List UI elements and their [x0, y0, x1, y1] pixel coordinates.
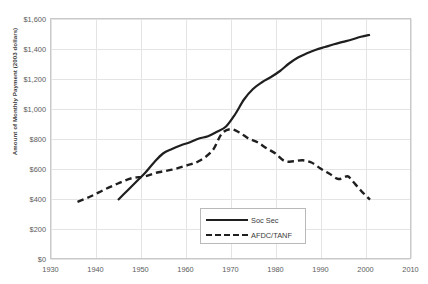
- legend-label: AFDC/TANF: [251, 231, 292, 240]
- x-axis-tick-label: 1940: [76, 265, 116, 274]
- series-line-afdc-tanf: [78, 129, 371, 202]
- data-series: [78, 35, 371, 202]
- x-axis-tick-label: 2000: [346, 265, 386, 274]
- x-axis-tick-labels: 193019401950196019701980199020002010: [0, 265, 428, 281]
- x-axis-tick-label: 1930: [31, 265, 71, 274]
- legend-item-afdc-tanf: AFDC/TANF: [201, 228, 307, 242]
- legend-line-dashed-icon: [206, 230, 248, 240]
- legend: Soc Sec AFDC/TANF: [200, 208, 306, 244]
- x-axis-tick-label: 2010: [391, 265, 428, 274]
- line-chart: Amount of Monthly Payment (2003 dollars)…: [0, 0, 428, 284]
- legend-item-soc-sec: Soc Sec: [201, 213, 307, 227]
- x-axis-tick-label: 1950: [121, 265, 161, 274]
- x-axis-tick-label: 1990: [301, 265, 341, 274]
- legend-label: Soc Sec: [251, 216, 279, 225]
- legend-line-solid-icon: [206, 215, 248, 225]
- x-axis-tick-label: 1970: [211, 265, 251, 274]
- series-line-soc-sec: [118, 35, 370, 200]
- x-axis-tick-label: 1980: [256, 265, 296, 274]
- x-axis-tick-label: 1960: [166, 265, 206, 274]
